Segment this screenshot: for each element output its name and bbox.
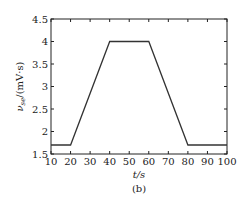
y-axis-ticks: 1.522.533.544.5 xyxy=(32,14,227,160)
y-tick-label: 4 xyxy=(42,36,48,47)
x-tick-label: 30 xyxy=(84,156,97,167)
data-line xyxy=(51,42,227,146)
x-axis-label: t/s xyxy=(133,169,146,180)
y-tick-label: 4.5 xyxy=(32,14,48,25)
y-tick-label: 2.5 xyxy=(32,104,48,115)
y-tick-label: 3 xyxy=(42,81,48,92)
x-tick-label: 50 xyxy=(123,156,136,167)
plot-frame xyxy=(51,19,227,154)
x-tick-label: 90 xyxy=(201,156,214,167)
x-tick-label: 80 xyxy=(182,156,195,167)
y-tick-label: 2 xyxy=(42,126,48,137)
x-tick-label: 40 xyxy=(103,156,116,167)
x-tick-label: 70 xyxy=(162,156,175,167)
x-tick-label: 20 xyxy=(64,156,77,167)
chart: 102030405060708090100 1.522.533.544.5 t/… xyxy=(0,0,245,207)
x-tick-label: 60 xyxy=(142,156,155,167)
x-tick-label: 100 xyxy=(217,156,236,167)
figure-caption: (b) xyxy=(132,183,146,194)
y-tick-label: 1.5 xyxy=(32,149,48,160)
y-axis-label: νse/(mV·s) xyxy=(14,61,27,111)
y-tick-label: 3.5 xyxy=(32,59,48,70)
